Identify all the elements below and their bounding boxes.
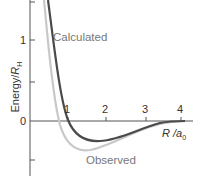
x-tick-label-3: 3: [142, 104, 148, 115]
y-tick-label-0: 0: [20, 116, 26, 127]
y-axis-label-symbol: R: [9, 67, 21, 75]
x-tick-label-4: 4: [177, 104, 183, 115]
observed-series-label: Observed: [86, 155, 136, 167]
x-tick-label-2: 2: [102, 104, 108, 115]
x-axis-label-sep: /a: [170, 127, 182, 139]
y-axis-label-sub: H: [16, 62, 23, 67]
chart-canvas: [0, 0, 201, 176]
calculated-curve: [48, 0, 185, 141]
x-axis-label-sub: 0: [182, 134, 186, 141]
x-axis-label-symbol: R: [162, 127, 170, 139]
x-axis-label: R /a0: [162, 127, 186, 141]
y-tick-label-1: 1: [20, 35, 26, 46]
calculated-series-label: Calculated: [53, 32, 107, 44]
y-axis-label: Energy/RH: [9, 57, 23, 117]
x-tick-label-1: 1: [64, 104, 70, 115]
y-axis-label-text: Energy/: [9, 75, 21, 113]
